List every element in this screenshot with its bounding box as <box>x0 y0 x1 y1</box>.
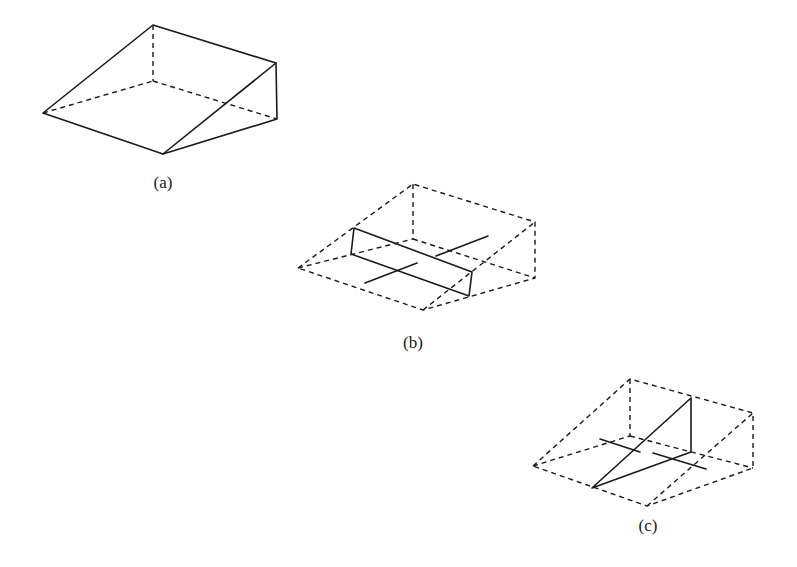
figure-b-wedge <box>298 184 535 310</box>
figure-b-label: (b) <box>403 333 423 353</box>
figure-c-section <box>592 398 706 488</box>
figure-a-label: (a) <box>154 173 173 193</box>
figure-c-label: (c) <box>639 516 658 536</box>
wedge-diagrams <box>0 0 797 567</box>
figure-a-wedge <box>43 25 277 154</box>
figure-b-section <box>351 228 488 296</box>
